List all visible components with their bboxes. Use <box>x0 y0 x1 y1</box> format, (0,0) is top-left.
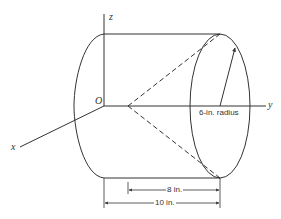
diagram-canvas: z y x O 6-in. radius 8 in. 10 in. <box>0 0 281 219</box>
radius-arrow <box>220 48 235 106</box>
radius-label: 6-in. radius <box>198 109 240 117</box>
cylinder-left-arc <box>74 34 104 178</box>
outer-length-label: 10 in. <box>154 199 176 207</box>
y-axis-label: y <box>268 100 272 110</box>
inner-length-label: 8 in. <box>166 186 183 194</box>
x-axis <box>20 106 104 147</box>
z-axis-label: z <box>109 12 113 22</box>
x-axis-label: x <box>11 142 15 152</box>
cone-upper-edge <box>128 34 220 106</box>
origin-label: O <box>95 96 102 106</box>
